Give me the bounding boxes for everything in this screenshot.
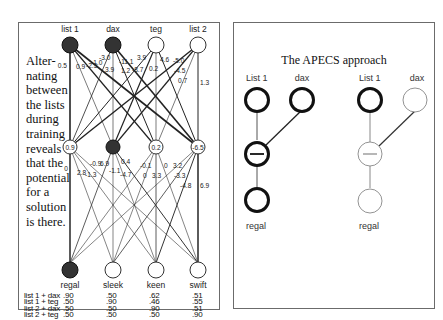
hidden-layer: 0.9 0.2 -6.5 xyxy=(63,140,205,154)
hidden-output-weight-labels: 0 2.8 -1.3 -0.9 6.9 -1.1 0.4 -4.7 -0.1 0… xyxy=(64,158,209,189)
apecs-bold-diagram: List 1 dax regal xyxy=(246,73,314,231)
table-column-regal: .90 .50 .50 .50 xyxy=(63,293,74,318)
weight-label: 1.2 xyxy=(121,67,130,74)
weight-label: -1.3 xyxy=(85,171,97,178)
weight-label: -0.1 xyxy=(140,162,152,169)
weight-label: 0 xyxy=(143,172,147,179)
input-node-label: list 2 xyxy=(189,24,207,34)
input-node-label: list 1 xyxy=(61,24,79,34)
weight-label: 6.9 xyxy=(100,160,109,167)
weight-label: 0.9 xyxy=(76,63,85,70)
weight-label: 3.9 xyxy=(105,66,114,73)
output-node-keen xyxy=(148,262,164,278)
table-cell: .90 xyxy=(192,312,203,318)
apecs-panel: The APECS approach List 1 dax regal List… xyxy=(233,22,435,309)
weight-label: -4.7 xyxy=(120,171,132,178)
input-node-teg xyxy=(148,37,164,53)
weight-label: 6.9 xyxy=(200,182,209,189)
input-node-list1 xyxy=(62,37,78,53)
table-row-label: list 2 + teg xyxy=(24,312,60,318)
table-cell: .50 xyxy=(106,312,117,318)
hidden-node-value: 0.9 xyxy=(65,144,74,151)
node-label: List 1 xyxy=(359,73,381,83)
node-label: regal xyxy=(246,221,266,231)
weight-label: -1.1 xyxy=(109,167,121,174)
table-cell: .50 xyxy=(63,312,74,318)
weight-label: -3.3 xyxy=(174,172,186,179)
weight-label: 1.3 xyxy=(200,79,209,86)
output-node-label: keen xyxy=(147,280,166,290)
output-node-sleek xyxy=(105,262,121,278)
apecs-title: The APECS approach xyxy=(281,53,386,67)
weight-label: -4.8 xyxy=(180,182,192,189)
list1-node xyxy=(359,89,382,112)
weight-label: 3.2 xyxy=(173,162,182,169)
weight-label: 0.7 xyxy=(178,77,187,84)
table-column-keen: .62 .46 .90 .50 xyxy=(149,293,160,318)
neural-network-panel: Alter- nating between the lists during t… xyxy=(18,22,220,310)
input-layer: list 1 dax teg list 2 xyxy=(61,24,207,53)
weight-label: 0.4 xyxy=(121,158,130,165)
output-node-label: swift xyxy=(190,280,208,290)
network-graph: list 1 dax teg list 2 0.5 0.9 -2.5 -1.0 … xyxy=(19,23,221,311)
input-node-list2 xyxy=(190,37,206,53)
hidden-node xyxy=(106,140,120,154)
apecs-diagram: The APECS approach List 1 dax regal List… xyxy=(234,23,436,310)
weight-label: 0 xyxy=(64,165,68,172)
output-node-regal xyxy=(62,262,78,278)
table-cell: .50 xyxy=(149,312,160,318)
regal-node xyxy=(246,189,269,212)
node-label: dax xyxy=(295,73,310,83)
weight-label: 4.6 xyxy=(160,56,169,63)
regal-node xyxy=(358,189,382,213)
weight-label: -11.1 xyxy=(119,58,134,65)
table-row-labels: list 1 + dax list 1 + teg list 2 + dax l… xyxy=(24,293,60,318)
node-label: dax xyxy=(410,73,425,83)
dax-node xyxy=(403,88,427,112)
input-node-label: teg xyxy=(150,24,162,34)
dax-node xyxy=(291,89,314,112)
output-layer: regal sleek keen swift xyxy=(61,262,208,290)
weight-label: 0.5 xyxy=(58,62,67,69)
weight-label: -8.7 xyxy=(132,66,144,73)
weight-label: -5.0 xyxy=(173,57,185,64)
output-node-label: sleek xyxy=(103,280,124,290)
weight-label: -4.5 xyxy=(174,67,186,74)
weight-label: -3.0 xyxy=(99,54,111,61)
hidden-node-value: -6.5 xyxy=(192,144,204,151)
list1-node xyxy=(246,89,269,112)
output-node-swift xyxy=(190,262,206,278)
weight-label: 0 xyxy=(164,162,168,169)
input-node-dax xyxy=(105,37,121,53)
node-label: List 1 xyxy=(246,73,268,83)
weight-label: 0.2 xyxy=(149,65,158,72)
weight-label: 3.3 xyxy=(152,172,161,179)
output-node-label: regal xyxy=(61,280,80,290)
node-label: regal xyxy=(359,221,379,231)
apecs-faded-diagram: List 1 dax regal xyxy=(358,73,427,231)
table-column-swift: .51 .55 .51 .90 xyxy=(192,293,203,318)
weight-label: 3.9 xyxy=(137,54,146,61)
table-column-sleek: .50 .90 .50 .50 xyxy=(106,293,117,318)
hidden-node-value: 0.2 xyxy=(151,144,160,151)
input-node-label: dax xyxy=(106,24,120,34)
